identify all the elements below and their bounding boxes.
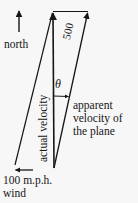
wind-label: 100 m.p.h. wind bbox=[3, 174, 52, 200]
actual-velocity-vector bbox=[53, 13, 54, 168]
vector-diagram-figure: north 500 θ actual velocity apparent vel… bbox=[0, 0, 138, 203]
apparent-velocity-label: apparent velocity of the plane bbox=[73, 99, 123, 138]
theta-label: θ bbox=[55, 78, 61, 91]
north-label: north bbox=[4, 38, 28, 51]
theta-angle-arrow bbox=[53, 96, 68, 97]
actual-velocity-label: actual velocity bbox=[37, 95, 50, 162]
